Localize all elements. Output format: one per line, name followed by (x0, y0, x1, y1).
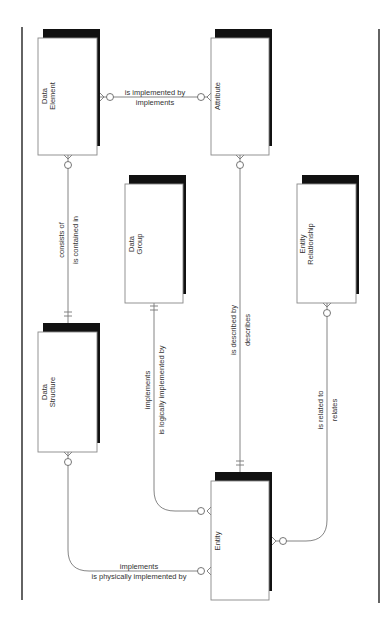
entity-entity[interactable]: Entity (211, 472, 272, 600)
entity-data-structure[interactable]: Data Structure (38, 323, 100, 452)
entity-entity-relationship-line2: Relationship (306, 223, 315, 264)
relationship-attribute-entity[interactable]: is described by describes (229, 155, 252, 472)
entity-data-element-line2: Element (48, 81, 57, 109)
label-is-described-by: is described by (229, 305, 238, 355)
relationship-structure-entity[interactable]: implements is physically implemented by (64, 452, 211, 581)
er-diagram: is implemented by implements consists of… (0, 0, 388, 627)
label-implements-physical: implements (120, 562, 159, 571)
relationship-er-entity[interactable]: is related to relates (272, 303, 339, 545)
label-implements-logical: implements (143, 371, 152, 410)
entity-data-element[interactable]: Data Element (38, 29, 100, 155)
label-is-related-to: is related to (316, 391, 325, 430)
label-relates: relates (330, 398, 339, 421)
entity-data-structure-line2: Structure (48, 377, 57, 407)
relationship-group-entity[interactable]: implements is logically implemented by (143, 303, 211, 515)
entity-entity-relationship[interactable]: Entity Relationship (297, 175, 359, 303)
label-is-logically-implemented-by: is logically implemented by (157, 345, 166, 434)
label-is-contained-in: is contained in (71, 216, 80, 264)
label-consists-of: consists of (57, 221, 66, 257)
entity-attribute[interactable]: Attribute (211, 29, 272, 155)
label-is-implemented-by: is implemented by (125, 88, 186, 97)
entity-data-group[interactable]: Data Group (125, 175, 186, 303)
label-is-physically-implemented-by: is physically implemented by (91, 572, 186, 581)
label-implements: implements (136, 98, 175, 107)
entity-data-group-line2: Group (135, 234, 144, 255)
relationship-element-attribute[interactable]: is implemented by implements (100, 88, 211, 107)
entity-entity-label: Entity (213, 531, 222, 550)
relationship-element-structure[interactable]: consists of is contained in (57, 155, 80, 323)
label-describes: describes (243, 314, 252, 346)
entity-attribute-label: Attribute (213, 82, 222, 110)
